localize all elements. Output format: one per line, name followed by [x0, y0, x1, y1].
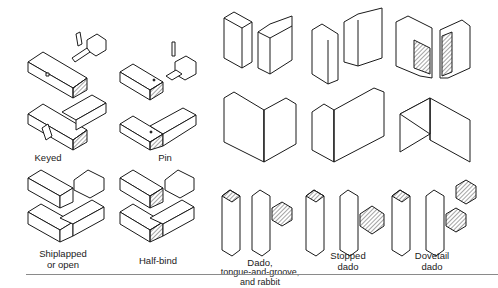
dado-joints	[222, 190, 292, 256]
pin-joint-exploded	[120, 42, 196, 100]
label-stopped-line1: Stopped	[318, 250, 378, 261]
label-shiplapped-line1: Shiplapped	[28, 248, 98, 259]
label-stopped-line2: dado	[318, 261, 378, 272]
half-blind-dovetail-exploded	[312, 8, 382, 84]
bottom-rule	[26, 274, 498, 275]
halfbind-joint-assembled	[120, 200, 194, 242]
blind-dovetail-assembled	[400, 98, 470, 162]
through-dovetail-exploded	[224, 12, 292, 74]
label-pin: Pin	[150, 152, 180, 163]
half-blind-dovetail-assembled	[312, 88, 384, 162]
label-keyed: Keyed	[28, 152, 68, 163]
label-dovetail-line2: dado	[402, 261, 462, 272]
label-halfbind: Half-bind	[128, 255, 188, 266]
blind-dovetail-exploded	[396, 16, 470, 78]
label-dado-line3: and rabbit	[210, 277, 310, 288]
through-dovetail-assembled	[224, 92, 296, 162]
label-shiplapped-line2: or open	[28, 259, 98, 270]
shiplapped-joint-assembled	[28, 200, 104, 242]
dovetail-dado-joints	[392, 180, 476, 256]
label-dovetail-line1: Dovetail	[402, 250, 462, 261]
pin-joint-assembled	[120, 108, 196, 150]
keyed-joint-assembled	[28, 95, 106, 150]
keyed-joint-exploded	[28, 32, 106, 98]
stopped-dado-joints	[306, 190, 384, 256]
